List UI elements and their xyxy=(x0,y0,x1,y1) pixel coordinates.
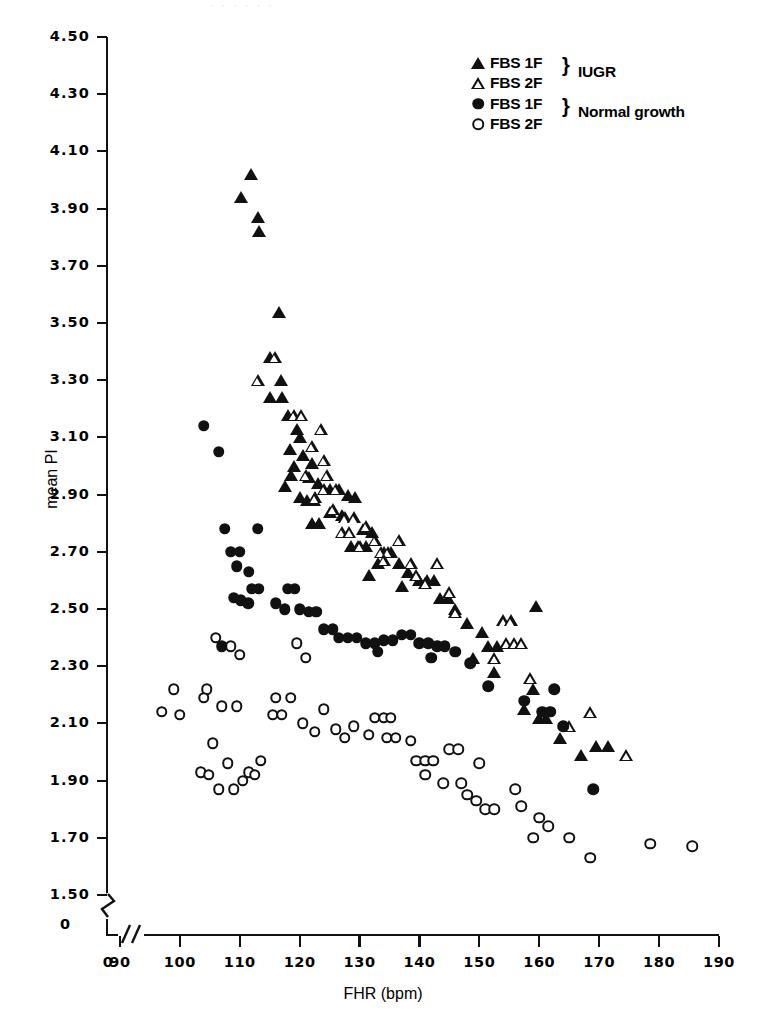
data-point-tri-open xyxy=(562,720,576,732)
data-point-circle-open xyxy=(528,832,540,844)
data-point-tri-filled xyxy=(263,391,277,403)
x-axis-tick xyxy=(598,936,600,947)
data-point-circle-open xyxy=(411,755,423,767)
data-point-tri-open xyxy=(335,526,349,538)
data-point-tri-filled xyxy=(290,423,304,435)
y-axis-title: mean PI xyxy=(43,419,61,539)
data-point-tri-open xyxy=(504,614,518,626)
y-axis-tick xyxy=(97,722,107,724)
data-point-tri-filled xyxy=(283,443,297,455)
data-point-circle-filled xyxy=(253,583,265,595)
data-point-circle-filled xyxy=(228,592,240,604)
data-point-tri-open xyxy=(377,554,391,566)
data-point-tri-open xyxy=(314,423,328,435)
data-point-tri-filled xyxy=(377,546,391,558)
data-point-tri-filled xyxy=(395,580,409,592)
data-point-circle-filled xyxy=(279,603,291,615)
data-point-circle-filled xyxy=(225,546,237,558)
y-axis-tick xyxy=(97,36,107,38)
y-axis-tick-label: 1.90 xyxy=(50,772,90,788)
data-point-circle-filled xyxy=(252,523,264,535)
data-point-circle-open xyxy=(210,632,222,644)
x-axis-tick xyxy=(358,936,360,947)
data-point-circle-open xyxy=(456,778,468,790)
data-point-tri-open xyxy=(308,491,322,503)
x-axis-tick xyxy=(239,936,241,947)
x-axis-tick-label: 160 xyxy=(523,954,555,970)
data-point-tri-filled xyxy=(300,494,314,506)
data-point-circle-filled xyxy=(243,566,255,578)
x-axis-tick xyxy=(658,936,660,947)
data-point-tri-filled xyxy=(281,409,295,421)
data-point-tri-filled xyxy=(601,740,615,752)
data-point-circle-open xyxy=(174,709,186,721)
legend-group-label-iugr: IUGR xyxy=(578,63,616,81)
y-axis-tick-label: 4.10 xyxy=(50,142,90,158)
data-point-tri-filled xyxy=(420,574,434,586)
x-axis-tick-label: 130 xyxy=(344,954,376,970)
data-point-tri-filled xyxy=(332,483,346,495)
data-point-circle-open xyxy=(318,703,330,715)
data-point-circle-filled xyxy=(369,638,381,650)
data-point-circle-open xyxy=(644,838,656,850)
x-axis-tick-label: 150 xyxy=(463,954,495,970)
y-axis-tick xyxy=(97,150,107,152)
data-point-circle-filled xyxy=(234,546,246,558)
data-point-circle-filled xyxy=(483,680,495,692)
data-point-circle-open xyxy=(198,692,210,704)
data-point-circle-open xyxy=(584,852,596,864)
data-point-circle-filled xyxy=(405,629,417,641)
x-axis-tick-label: 90 xyxy=(109,954,130,970)
data-point-circle-open xyxy=(309,726,321,738)
data-point-circle-open xyxy=(489,803,501,815)
x-axis-line xyxy=(108,934,719,936)
data-point-tri-filled xyxy=(589,740,603,752)
legend-label: FBS 2F xyxy=(490,116,542,132)
data-point-tri-filled xyxy=(302,471,316,483)
data-point-tri-open xyxy=(268,351,282,363)
data-point-tri-filled xyxy=(348,491,362,503)
data-point-circle-filled xyxy=(414,638,426,650)
data-point-circle-open xyxy=(420,755,432,767)
legend-brace-normal: } xyxy=(562,95,570,118)
data-point-circle-filled xyxy=(231,560,243,572)
data-point-tri-filled xyxy=(490,640,504,652)
data-point-circle-filled xyxy=(396,629,408,641)
x-axis-tick xyxy=(418,936,420,947)
data-point-tri-open xyxy=(404,557,418,569)
data-point-tri-filled xyxy=(293,431,307,443)
data-point-tri-open xyxy=(299,469,313,481)
data-point-tri-filled xyxy=(284,469,298,481)
data-point-circle-filled xyxy=(333,632,345,644)
y-axis-tick xyxy=(97,665,107,667)
data-point-tri-filled xyxy=(305,457,319,469)
data-point-tri-open xyxy=(381,546,395,558)
data-point-circle-open xyxy=(216,700,228,712)
data-point-circle-open xyxy=(444,743,456,755)
y-axis-tick xyxy=(97,322,107,324)
y-axis-break-icon xyxy=(96,893,120,919)
data-point-circle-open xyxy=(534,812,546,824)
data-point-tri-filled xyxy=(466,652,480,664)
data-point-circle-filled xyxy=(372,646,384,658)
x-axis-tick xyxy=(119,936,121,947)
data-point-tri-filled xyxy=(526,683,540,695)
legend-glyph xyxy=(472,119,484,131)
data-point-tri-filled xyxy=(529,600,543,612)
data-point-tri-open xyxy=(347,511,361,523)
data-point-circle-open xyxy=(213,783,225,795)
data-point-tri-open xyxy=(409,569,423,581)
data-point-tri-open xyxy=(487,652,501,664)
data-point-tri-open xyxy=(514,637,528,649)
data-point-tri-open xyxy=(294,409,308,421)
y-axis-line xyxy=(106,37,108,895)
legend-label: FBS 1F xyxy=(490,55,542,71)
data-point-circle-open xyxy=(222,758,234,770)
data-point-tri-filled xyxy=(305,517,319,529)
data-point-circle-filled xyxy=(519,695,531,707)
data-point-circle-filled xyxy=(303,606,315,618)
data-point-tri-filled xyxy=(344,540,358,552)
legend-glyph xyxy=(471,77,485,89)
data-point-circle-open xyxy=(231,700,243,712)
y-axis-tick xyxy=(97,894,107,896)
